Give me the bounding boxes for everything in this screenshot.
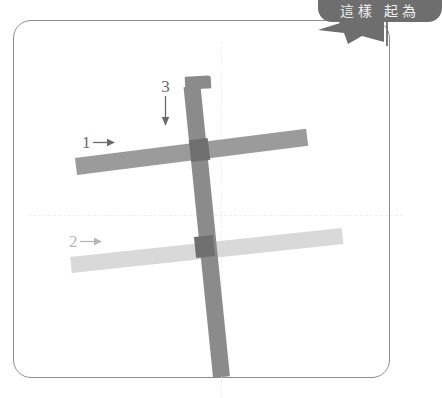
speech-bubble-stem	[386, 20, 388, 46]
stroke-overlap-node-upper	[189, 138, 211, 162]
stroke-3-shape	[184, 86, 230, 378]
speech-bubble: 這樣 起為	[318, 0, 442, 22]
stroke-3-label: 3	[161, 78, 170, 126]
stroke-overlap-node-lower	[194, 235, 215, 258]
arrow-right-icon	[80, 237, 102, 246]
arrow-down-icon	[161, 96, 170, 126]
stroke-1-number: 1	[82, 134, 91, 151]
practice-grid-frame: 1 2 3	[13, 20, 390, 378]
stroke-1-label: 1	[82, 134, 115, 151]
arrow-right-icon	[93, 138, 115, 147]
stroke-3-number: 3	[161, 78, 170, 95]
horizontal-center-guide	[28, 215, 403, 216]
stroke-2-number: 2	[69, 233, 78, 250]
stroke-2-label: 2	[69, 233, 102, 250]
speech-bubble-text: 這樣 起為	[318, 0, 442, 20]
